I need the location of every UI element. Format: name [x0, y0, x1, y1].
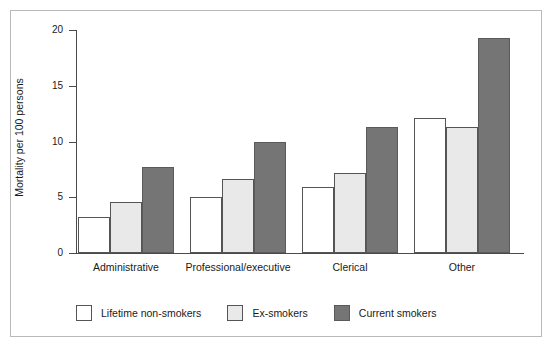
legend-item: Current smokers	[334, 305, 437, 321]
legend-label: Ex-smokers	[252, 307, 307, 319]
bar-chart-plot-area: Mortality per 100 persons 05101520 Admin…	[0, 0, 553, 349]
bar	[142, 167, 174, 253]
bar	[302, 187, 334, 253]
bar	[478, 38, 510, 253]
y-axis-tick-label: 5	[41, 192, 63, 202]
legend-item: Ex-smokers	[227, 305, 307, 321]
y-axis-tick-label: 15	[41, 81, 63, 91]
y-axis-tick: 15	[0, 86, 77, 87]
bar	[414, 118, 446, 253]
legend-label: Lifetime non-smokers	[101, 307, 201, 319]
y-axis-tick: 10	[0, 142, 77, 143]
bar	[446, 127, 478, 253]
figure: Mortality per 100 persons 05101520 Admin…	[0, 0, 553, 349]
y-axis-tick-label: 0	[41, 248, 63, 258]
legend-swatch	[334, 305, 350, 321]
bar	[78, 217, 110, 253]
x-axis-category-label: Other	[382, 261, 542, 273]
y-axis-tick: 20	[0, 30, 77, 31]
y-axis-tick-mark	[69, 86, 77, 87]
y-axis-tick-mark	[69, 253, 77, 254]
legend-label: Current smokers	[359, 307, 437, 319]
y-axis-tick-mark	[69, 30, 77, 31]
chart-legend: Lifetime non-smokersEx-smokersCurrent sm…	[76, 300, 462, 326]
y-axis-tick-mark	[69, 142, 77, 143]
bar	[110, 202, 142, 253]
y-axis-tick: 5	[0, 197, 77, 198]
y-axis-tick: 0	[0, 253, 77, 254]
bar	[334, 173, 366, 253]
legend-swatch	[76, 305, 92, 321]
y-axis-tick-label: 10	[41, 137, 63, 147]
y-axis-tick-label: 20	[41, 25, 63, 35]
x-axis-line	[76, 253, 524, 254]
bar	[222, 179, 254, 253]
bar	[190, 197, 222, 253]
legend-item: Lifetime non-smokers	[76, 305, 201, 321]
legend-swatch	[227, 305, 243, 321]
bar	[366, 127, 398, 253]
y-axis-tick-mark	[69, 197, 77, 198]
bar	[254, 142, 286, 254]
